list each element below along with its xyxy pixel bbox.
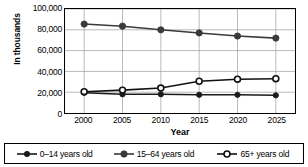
data-point-marker xyxy=(120,87,126,93)
plot-area xyxy=(64,8,296,114)
y-tick-label: 0 xyxy=(57,110,62,119)
series-line xyxy=(84,79,276,92)
x-tick-label: 2005 xyxy=(113,116,131,125)
y-tick-label: 60,000 xyxy=(37,46,62,55)
data-point-marker xyxy=(273,35,279,41)
x-tick-label: 2025 xyxy=(268,116,286,125)
legend-item[interactable]: 65+ years old xyxy=(204,149,303,159)
y-tick-label: 40,000 xyxy=(37,67,62,76)
legend-item[interactable]: 15–64 years old xyxy=(104,149,203,159)
y-tick-label: 100,000 xyxy=(33,4,62,13)
legend-label: 65+ years old xyxy=(240,149,289,159)
data-point-marker xyxy=(158,92,163,97)
chart-legend: 0–14 years old15–64 years old65+ years o… xyxy=(4,143,304,164)
legend-marker-icon xyxy=(217,149,237,159)
line-chart: In thousands 020,00040,00060,00080,00010… xyxy=(0,0,308,167)
legend-marker-icon xyxy=(114,149,134,159)
data-point-marker xyxy=(234,33,240,39)
y-axis-tick-labels: 020,00040,00060,00080,000100,000 xyxy=(10,8,62,114)
legend-label: 0–14 years old xyxy=(40,149,93,159)
data-point-marker xyxy=(273,76,279,82)
data-point-marker xyxy=(81,21,87,27)
y-tick-label: 20,000 xyxy=(37,89,62,98)
y-tick-label: 80,000 xyxy=(37,25,62,34)
series-line xyxy=(84,24,276,38)
x-tick-label: 2000 xyxy=(74,116,92,125)
data-point-marker xyxy=(81,89,87,95)
legend-item[interactable]: 0–14 years old xyxy=(5,149,104,159)
legend-label: 15–64 years old xyxy=(137,149,195,159)
x-axis-title: Year xyxy=(64,127,296,137)
data-point-marker xyxy=(196,30,202,36)
series-line xyxy=(84,93,276,96)
data-point-marker xyxy=(158,85,164,91)
data-point-marker xyxy=(235,92,240,97)
x-tick-label: 2010 xyxy=(152,116,170,125)
data-point-marker xyxy=(158,27,164,33)
data-point-marker xyxy=(196,78,202,84)
x-tick-label: 2015 xyxy=(190,116,208,125)
data-point-marker xyxy=(273,93,278,98)
plot-svg xyxy=(65,9,295,113)
legend-marker-icon xyxy=(17,149,37,159)
data-point-marker xyxy=(235,76,241,82)
x-tick-label: 2020 xyxy=(229,116,247,125)
data-point-marker xyxy=(196,92,201,97)
data-point-marker xyxy=(119,23,125,29)
